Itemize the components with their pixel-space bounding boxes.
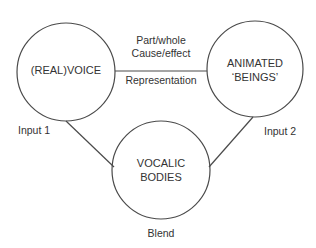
caption-input2: Input 2	[264, 125, 296, 138]
edge-label-below: Representation	[115, 74, 207, 87]
caption-input1: Input 1	[18, 124, 50, 137]
edge-label-representation: Representation	[115, 74, 207, 87]
node-input1-line-1: (REAL)VOICE	[17, 63, 115, 77]
edge-label-cause-effect: Cause/effect	[115, 47, 207, 60]
node-input2-line-2: ‘BEINGS’	[207, 70, 303, 84]
node-input1-label: (REAL)VOICE	[17, 63, 115, 77]
node-input2-label: ANIMATED ‘BEINGS’	[207, 56, 303, 84]
node-blend-line-2: BODIES	[112, 170, 210, 184]
edge-input2-blend	[209, 117, 253, 167]
node-blend-label: VOCALIC BODIES	[112, 156, 210, 184]
node-input2-line-1: ANIMATED	[207, 56, 303, 70]
edge-input1-blend	[66, 121, 114, 167]
node-blend-line-1: VOCALIC	[112, 156, 210, 170]
edge-label-above: Part/whole Cause/effect	[115, 34, 207, 60]
edge-label-part-whole: Part/whole	[115, 34, 207, 47]
caption-blend: Blend	[112, 227, 210, 240]
